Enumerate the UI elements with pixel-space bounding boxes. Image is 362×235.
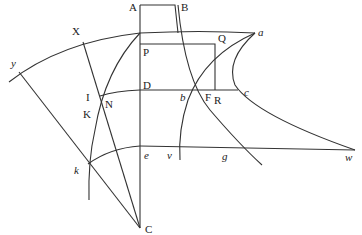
label-g: g bbox=[222, 151, 228, 162]
label-y: y bbox=[11, 58, 16, 69]
arc-ke bbox=[88, 146, 140, 164]
geometric-diagram: A B X P Q a y I N D b F R c K e v g w k … bbox=[0, 0, 362, 235]
line-xc bbox=[83, 42, 140, 228]
arc-nd bbox=[100, 90, 140, 96]
diagram-lines bbox=[0, 0, 362, 235]
label-B: B bbox=[181, 2, 188, 13]
curve-bf bbox=[178, 5, 262, 165]
label-Q: Q bbox=[218, 33, 226, 44]
label-P: P bbox=[143, 47, 149, 58]
label-e: e bbox=[144, 150, 149, 161]
label-b: b bbox=[180, 92, 186, 103]
rect-pqr bbox=[140, 44, 215, 90]
arc-ank bbox=[89, 33, 140, 200]
label-I: I bbox=[86, 92, 90, 103]
label-K: K bbox=[83, 109, 91, 120]
label-R: R bbox=[214, 95, 221, 106]
label-v: v bbox=[167, 150, 172, 161]
label-w: w bbox=[345, 152, 352, 163]
label-F: F bbox=[205, 92, 211, 103]
label-C: C bbox=[145, 224, 152, 235]
label-a: a bbox=[258, 27, 264, 38]
box-ab bbox=[140, 5, 178, 33]
curve-acw bbox=[233, 33, 356, 150]
label-A: A bbox=[129, 2, 137, 13]
label-X: X bbox=[72, 26, 80, 37]
label-N: N bbox=[105, 99, 113, 110]
label-k: k bbox=[74, 165, 79, 176]
line-ew bbox=[140, 146, 355, 150]
label-D: D bbox=[143, 80, 151, 91]
label-c: c bbox=[244, 87, 249, 98]
line-yc bbox=[19, 72, 140, 228]
